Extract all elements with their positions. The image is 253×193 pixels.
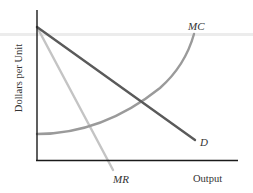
mr-curve [37,27,113,170]
monopoly-pricing-chart: MC D MR Output Dollars per Unit [0,0,253,193]
scan-band [0,33,253,36]
y-axis-label: Dollars per Unit [13,44,24,112]
x-axis-label: Output [193,173,222,184]
demand-curve [37,27,195,140]
d-label: D [199,136,208,148]
mc-label: MC [187,20,205,32]
mr-label: MR [112,173,129,185]
chart-canvas: MC D MR Output Dollars per Unit [0,0,253,193]
